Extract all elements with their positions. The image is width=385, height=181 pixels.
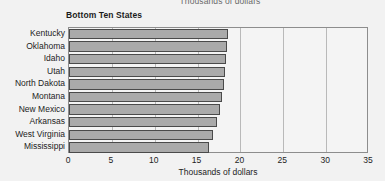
x-axis-tick-label: 25: [278, 155, 287, 165]
x-axis-tick-label: 35: [363, 155, 372, 165]
chart-title: Bottom Ten States: [66, 10, 142, 20]
bar: [69, 54, 226, 64]
x-axis-tick-label: 15: [192, 155, 201, 165]
bar: [69, 142, 209, 152]
bar-row: [69, 141, 369, 154]
x-axis-tick-label: 20: [235, 155, 244, 165]
bar: [69, 67, 225, 77]
y-axis-tick-label: Montana: [1, 90, 65, 103]
x-axis-tick-label: 0: [66, 155, 71, 165]
bar-row: [69, 66, 369, 79]
y-axis-tick-label: Idaho: [1, 52, 65, 65]
bar: [69, 79, 224, 89]
y-axis-tick-label: West Virginia: [1, 128, 65, 141]
y-axis-tick-label: Arkansas: [1, 115, 65, 128]
y-axis-tick-label: North Dakota: [1, 77, 65, 90]
bar-row: [69, 53, 369, 66]
bar-row: [69, 28, 369, 41]
x-axis-label: Thousands of dollars: [68, 167, 368, 177]
y-axis-tick-label: New Mexico: [1, 103, 65, 116]
bar: [69, 130, 213, 140]
top-axis-caption: Thousands of dollars: [150, 0, 290, 6]
x-axis-tick-labels: 05101520253035: [0, 155, 385, 167]
x-axis-tick-label: 30: [320, 155, 329, 165]
bar-row: [69, 41, 369, 54]
x-axis-tick-label: 5: [108, 155, 113, 165]
bar: [69, 41, 227, 51]
bar-row: [69, 116, 369, 129]
bar: [69, 92, 222, 102]
bar-row: [69, 129, 369, 142]
bar: [69, 104, 220, 114]
x-axis-tick-label: 10: [149, 155, 158, 165]
bar-row: [69, 91, 369, 104]
bar: [69, 29, 228, 39]
plot-area: [68, 27, 368, 153]
bar: [69, 117, 217, 127]
y-axis-tick-label: Mississippi: [1, 140, 65, 153]
bar-row: [69, 78, 369, 91]
bar-row: [69, 104, 369, 117]
y-axis-tick-label: Kentucky: [1, 27, 65, 40]
y-axis-tick-label: Utah: [1, 65, 65, 78]
bar-chart-figure: Thousands of dollars Bottom Ten States K…: [0, 0, 385, 181]
y-axis-tick-label: Oklahoma: [1, 40, 65, 53]
y-axis-category-labels: KentuckyOklahomaIdahoUtahNorth DakotaMon…: [0, 27, 65, 153]
